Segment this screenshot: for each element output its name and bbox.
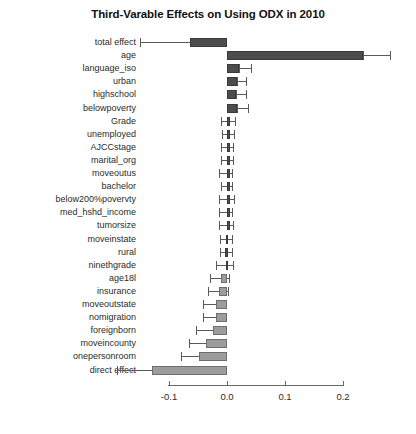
error-bar-cap-high bbox=[246, 90, 247, 99]
chart-row: Grade bbox=[0, 115, 416, 128]
bar-belowpoverty bbox=[227, 104, 237, 113]
bar-marital-org bbox=[227, 156, 230, 165]
bar-bachelor bbox=[227, 182, 230, 191]
row-label-belowpoverty: belowpoverty bbox=[0, 102, 136, 115]
plot-area: total effectagelanguage_isourbanhighscho… bbox=[0, 36, 416, 376]
error-bar-cap-low bbox=[210, 274, 211, 283]
row-label-below200-povervty: below200%povervty bbox=[0, 193, 136, 206]
chart-row: language_iso bbox=[0, 62, 416, 75]
error-bar-cap-high bbox=[233, 143, 234, 152]
row-label-foreignborn: foreignborn bbox=[0, 324, 136, 337]
error-bar-cap-high bbox=[229, 274, 230, 283]
row-label-insurance: insurance bbox=[0, 285, 136, 298]
chart-row: urban bbox=[0, 75, 416, 88]
row-label-marital-org: marital_org bbox=[0, 154, 136, 167]
error-bar-cap-high bbox=[228, 287, 229, 296]
chart-row: onepersonroom bbox=[0, 350, 416, 363]
row-label-bachelor: bachelor bbox=[0, 180, 136, 193]
x-tick-label: -0.1 bbox=[149, 391, 189, 402]
bar-highschool bbox=[227, 90, 236, 99]
error-bar-cap-low bbox=[203, 300, 204, 309]
bar-moveoutus bbox=[227, 169, 230, 178]
row-label-direct-effect: direct effect bbox=[0, 364, 136, 377]
error-bar-cap-high bbox=[234, 130, 235, 139]
error-bar-cap-high bbox=[246, 77, 247, 86]
error-bar-line bbox=[140, 42, 190, 43]
bar-urban bbox=[227, 77, 237, 86]
error-bar-cap-high bbox=[233, 156, 234, 165]
x-axis-line bbox=[168, 385, 344, 386]
bar-below200-povervty bbox=[227, 195, 230, 204]
chart-row: age18l bbox=[0, 272, 416, 285]
error-bar-line bbox=[216, 265, 233, 266]
error-bar-cap-low bbox=[219, 195, 220, 204]
chart-row: rural bbox=[0, 246, 416, 259]
error-bar-cap-low bbox=[140, 38, 141, 47]
error-bar-line bbox=[237, 81, 246, 82]
error-bar-cap-low bbox=[237, 104, 238, 113]
error-bar-cap-low bbox=[221, 182, 222, 191]
chart-row: nomigration bbox=[0, 311, 416, 324]
error-bar-cap-low bbox=[239, 64, 240, 73]
error-bar-cap-low bbox=[219, 208, 220, 217]
error-bar-cap-high bbox=[232, 169, 233, 178]
bar-language-iso bbox=[227, 64, 239, 73]
bar-direct-effect bbox=[152, 366, 227, 375]
bar-med-hshd-income bbox=[227, 208, 230, 217]
chart-row: highschool bbox=[0, 88, 416, 101]
bar-moveinstate bbox=[226, 235, 229, 244]
chart-row: direct effect bbox=[0, 364, 416, 377]
chart-root: Third-Varable Effects on Using ODX in 20… bbox=[0, 0, 416, 434]
row-label-moveincounty: moveincounty bbox=[0, 337, 136, 350]
row-label-ajccstage: AJCCstage bbox=[0, 141, 136, 154]
chart-row: tumorsize bbox=[0, 219, 416, 232]
bar-age bbox=[227, 51, 363, 60]
error-bar-cap-high bbox=[233, 221, 234, 230]
chart-row: AJCCstage bbox=[0, 141, 416, 154]
chart-row: belowpoverty bbox=[0, 102, 416, 115]
error-bar-cap-low bbox=[196, 326, 197, 335]
error-bar-cap-high bbox=[232, 208, 233, 217]
x-tick-label: 0.1 bbox=[265, 391, 305, 402]
x-axis: -0.10.00.10.2 bbox=[0, 381, 416, 391]
error-bar-line bbox=[237, 108, 247, 109]
chart-row: foreignborn bbox=[0, 324, 416, 337]
chart-row: marital_org bbox=[0, 154, 416, 167]
x-tick bbox=[343, 381, 344, 386]
row-label-tumorsize: tumorsize bbox=[0, 219, 136, 232]
error-bar-cap-low bbox=[216, 261, 217, 270]
bar-insurance bbox=[219, 287, 227, 296]
chart-row: moveinstate bbox=[0, 233, 416, 246]
bar-rural bbox=[225, 248, 228, 257]
error-bar-cap-high bbox=[234, 195, 235, 204]
row-label-age18l: age18l bbox=[0, 272, 136, 285]
bar-ajccstage bbox=[227, 143, 230, 152]
error-bar-line bbox=[236, 94, 246, 95]
error-bar-cap-low bbox=[236, 90, 237, 99]
row-label-urban: urban bbox=[0, 75, 136, 88]
error-bar-cap-low bbox=[203, 313, 204, 322]
x-tick-label: 0.0 bbox=[207, 391, 247, 402]
bar-age18l bbox=[221, 274, 227, 283]
bar-total-effect bbox=[190, 38, 227, 47]
error-bar-cap-high bbox=[232, 235, 233, 244]
row-label-ninethgrade: ninethgrade bbox=[0, 259, 136, 272]
error-bar-cap-low bbox=[208, 287, 209, 296]
row-label-moveoutus: moveoutus bbox=[0, 167, 136, 180]
row-label-unemployed: unemployed bbox=[0, 128, 136, 141]
chart-row: total effect bbox=[0, 36, 416, 49]
error-bar-cap-high bbox=[232, 248, 233, 257]
row-label-moveoutstate: moveoutstate bbox=[0, 298, 136, 311]
error-bar-cap-low bbox=[237, 77, 238, 86]
chart-row: med_hshd_income bbox=[0, 206, 416, 219]
row-label-age: age bbox=[0, 49, 136, 62]
row-label-highschool: highschool bbox=[0, 88, 136, 101]
chart-row: bachelor bbox=[0, 180, 416, 193]
error-bar-line bbox=[219, 173, 232, 174]
error-bar-cap-low bbox=[189, 339, 190, 348]
bar-nomigration bbox=[216, 313, 227, 322]
chart-row: moveincounty bbox=[0, 337, 416, 350]
error-bar-line bbox=[363, 55, 390, 56]
error-bar-cap-low bbox=[363, 51, 364, 60]
bar-grade bbox=[227, 117, 230, 126]
